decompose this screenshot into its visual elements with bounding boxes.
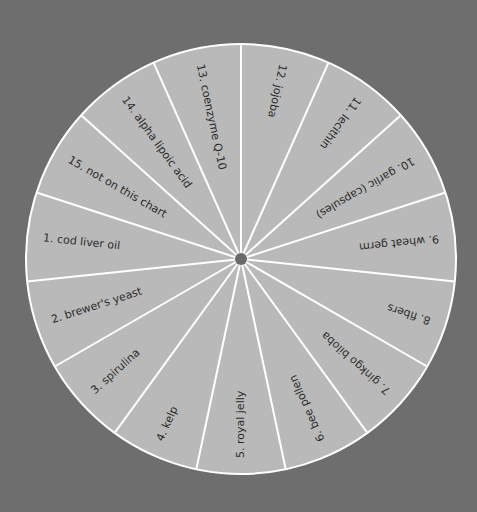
segment-label: 5. royal jelly (234, 390, 247, 458)
center-hub (235, 253, 247, 265)
wheel-diagram: 12. jojoba11. lecithin10. garlic (capsul… (0, 0, 477, 512)
supplement-wheel: 12. jojoba11. lecithin10. garlic (capsul… (0, 0, 477, 512)
